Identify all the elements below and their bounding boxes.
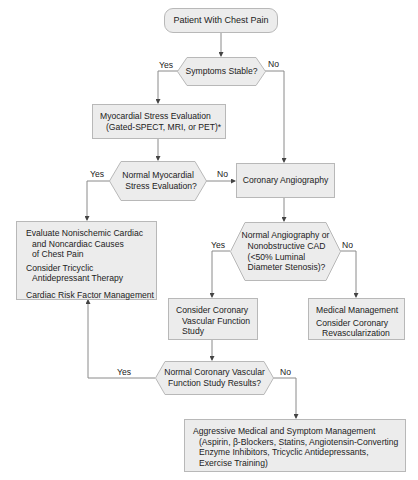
vascular-study-line3: Study: [176, 326, 257, 337]
evaluate-p1-l2: and Noncardiac Causes: [26, 239, 156, 250]
angio-decision-line2: Nonobstructive CAD: [242, 241, 330, 252]
vascular-decision-line2: Function Study Results?: [164, 378, 265, 389]
evaluate-p3-l1: Cardiac Risk Factor Management: [26, 290, 156, 301]
yes-label-angio: Yes: [211, 240, 225, 250]
stress-eval-line1: Myocardial Stress Evaluation: [100, 111, 225, 122]
no-label-normal-stress: No: [217, 169, 228, 179]
decision-symptoms-stable: Symptoms Stable?: [177, 57, 266, 86]
medical-mgmt-line1: Medical Management: [316, 305, 404, 316]
angiography-label: Coronary Angiography: [243, 175, 329, 186]
evaluate-p1-l3: of Chest Pain: [26, 249, 156, 260]
process-evaluate-nonischemic-causes: Evaluate Nonischemic Cardiac and Noncard…: [16, 221, 157, 300]
yes-label-stable: Yes: [159, 60, 173, 70]
aggressive-line1: Aggressive Medical and Symptom Managemen…: [193, 426, 405, 437]
no-label-vascular: No: [280, 367, 291, 377]
decision-normal-myocardial-stress: Normal Myocardial Stress Evaluation?: [109, 161, 207, 201]
decision-symptoms-stable-label: Symptoms Stable?: [185, 66, 257, 77]
aggressive-line3: Enzyme Inhibitors, Tricyclic Antidepress…: [193, 447, 405, 458]
aggressive-line2: (Aspirin, β-Blockers, Statins, Angiotens…: [193, 437, 405, 448]
aggressive-line4: Exercise Training): [193, 458, 405, 469]
vascular-study-line2: Vascular Function: [176, 316, 257, 327]
evaluate-p1-l1: Evaluate Nonischemic Cardiac: [26, 228, 156, 239]
process-medical-management: Medical Management Consider Coronary Rev…: [308, 298, 405, 340]
yes-label-normal-stress: Yes: [90, 169, 104, 179]
normal-stress-line1: Normal Myocardial: [119, 170, 197, 181]
decision-normal-vascular-function: Normal Coronary Vascular Function Study …: [155, 361, 274, 395]
process-aggressive-medical-management: Aggressive Medical and Symptom Managemen…: [184, 419, 406, 472]
evaluate-p2-l2: Antidepressant Therapy: [26, 273, 156, 284]
normal-stress-line2: Stress Evaluation?: [119, 181, 197, 192]
angio-decision-line1: Normal Angiography or: [242, 230, 330, 241]
angio-decision-line3: (<50% Luminal: [242, 252, 330, 263]
angio-decision-line4: Diameter Stenosis)?: [242, 262, 330, 273]
no-label-stable: No: [268, 59, 279, 69]
process-vascular-function-study: Consider Coronary Vascular Function Stud…: [168, 298, 258, 340]
start-node-patient-chest-pain: Patient With Chest Pain: [164, 8, 278, 33]
vascular-decision-line1: Normal Coronary Vascular: [164, 367, 265, 378]
process-coronary-angiography: Coronary Angiography: [236, 163, 335, 198]
yes-label-vascular: Yes: [117, 367, 131, 377]
decision-normal-angiography: Normal Angiography or Nonobstructive CAD…: [230, 222, 341, 281]
evaluate-p2-l1: Consider Tricyclic: [26, 263, 156, 274]
medical-mgmt-line2: Consider Coronary: [316, 318, 404, 329]
process-myocardial-stress-evaluation: Myocardial Stress Evaluation (Gated-SPEC…: [92, 104, 226, 139]
medical-mgmt-line3: Revascularization: [316, 328, 404, 339]
start-node-label: Patient With Chest Pain: [173, 15, 268, 26]
stress-eval-line2: (Gated-SPECT, MRI, or PET)*: [100, 122, 225, 133]
no-label-angio: No: [342, 240, 353, 250]
vascular-study-line1: Consider Coronary: [176, 305, 257, 316]
